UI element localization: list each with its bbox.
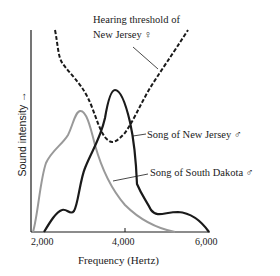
y-axis-label: Sound intensity → [16,84,28,184]
x-tick-label-2000: 2,000 [31,236,54,247]
threshold-label-line1: Hearing threshold of [93,14,180,26]
song-new-jersey-label: Song of New Jersey ♂ [147,129,242,141]
song-new-jersey-curve [44,90,209,232]
hearing-threshold-curve [55,30,188,142]
threshold-label-line2: New Jersey ♀ [93,29,152,41]
x-tick-label-6000: 6,000 [195,236,218,247]
nj-song-leader-line [133,134,146,136]
sd-song-leader-line [113,174,148,181]
x-tick-label-4000: 4,000 [112,236,135,247]
threshold-leader-line [133,47,158,69]
song-south-dakota-label: Song of South Dakota ♂ [150,167,254,179]
x-axis-label: Frequency (Hertz) [78,254,159,266]
